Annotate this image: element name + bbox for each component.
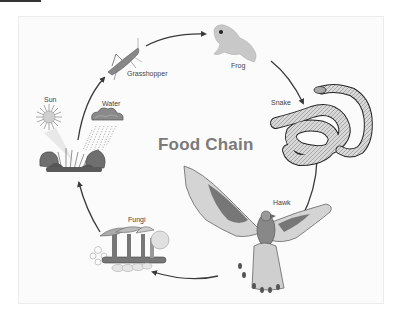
label-sun: Sun <box>44 96 56 103</box>
label-grasshopper: Grasshopper <box>127 70 167 77</box>
label-hawk: Hawk <box>273 199 291 206</box>
arrow-grasshopper-to-frog <box>146 34 205 46</box>
food-chain-diagram <box>0 0 396 320</box>
sun-icon <box>36 104 74 162</box>
arrow-hawk-to-fungi <box>153 272 218 279</box>
label-frog: Frog <box>231 62 245 69</box>
rain-cloud-icon <box>83 108 123 150</box>
fungi-icon <box>90 227 169 272</box>
snake-icon <box>276 87 368 161</box>
arrow-fungi-to-plant <box>79 183 100 232</box>
frog-icon <box>214 25 256 62</box>
diagram-title: Food Chain <box>158 135 253 155</box>
label-water: Water <box>102 100 120 107</box>
label-snake: Snake <box>271 99 291 106</box>
label-fungi: Fungi <box>128 216 146 223</box>
arrow-frog-to-snake <box>271 61 303 103</box>
hawk-icon <box>184 166 331 293</box>
